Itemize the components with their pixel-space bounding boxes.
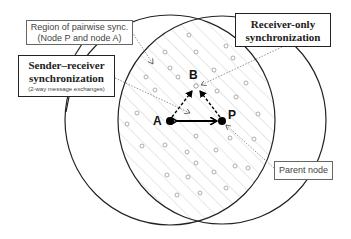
region-callout-line2: (Node P and node A)	[27, 33, 132, 44]
sender-receiver-callout: Sender–receiver synchronization (2-way m…	[18, 55, 115, 97]
sender-callout-line3: (2-way message exchanges)	[19, 85, 114, 93]
receiver-callout-line2: synchronization	[236, 31, 330, 44]
node-b	[194, 84, 198, 88]
node-label-b: B	[189, 68, 198, 82]
receiver-only-callout: Receiver-only synchronization	[235, 13, 331, 47]
node-a	[166, 117, 174, 125]
connector-region-sender	[75, 44, 82, 55]
region-callout: Region of pairwise sync. (Node P and nod…	[26, 20, 133, 45]
sender-callout-line1: Sender–receiver	[19, 59, 114, 72]
sender-callout-line2: synchronization	[19, 72, 114, 85]
region-callout-line1: Region of pairwise sync.	[27, 22, 132, 33]
receiver-callout-line1: Receiver-only	[236, 18, 330, 31]
node-label-a: A	[153, 114, 162, 128]
node-label-p: P	[228, 108, 236, 122]
node-p	[218, 117, 226, 125]
parent-node-callout: Parent node	[274, 161, 333, 180]
